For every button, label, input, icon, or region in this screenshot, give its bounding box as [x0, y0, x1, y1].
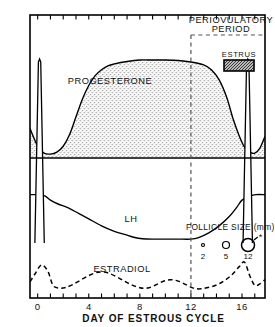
xtick-label: 4: [86, 301, 92, 312]
xtick-label: 16: [236, 301, 247, 312]
xtick-label: 8: [137, 301, 143, 312]
lh-label: LH: [125, 214, 138, 224]
progesterone-label: PROGESTERONE: [68, 76, 153, 86]
follicle-size-label-12: 12: [244, 252, 253, 261]
hormone-chart-svg: 0481216DAY OF ESTROUS CYCLE PERIOVULATOR…: [0, 0, 275, 327]
estradiol-label: ESTRADIOL: [93, 264, 150, 274]
xtick-label: 0: [35, 301, 41, 312]
xaxis-title: DAY OF ESTROUS CYCLE: [82, 313, 224, 324]
estrus-box: [224, 60, 254, 71]
ovulation-asterisk-icon: *: [259, 232, 263, 242]
xtick-label: 12: [185, 301, 196, 312]
follicle-size-label-5: 5: [224, 252, 229, 261]
follicle-size-label-2: 2: [201, 252, 206, 261]
follicle-legend-title: FOLLICLE SIZE (mm): [186, 222, 275, 232]
periovulatory-period-label-line2: PERIOD: [212, 24, 251, 34]
estrous-cycle-figure: 0481216DAY OF ESTROUS CYCLE PERIOVULATOR…: [0, 0, 275, 327]
estrus-label: ESTRUS: [222, 50, 256, 59]
